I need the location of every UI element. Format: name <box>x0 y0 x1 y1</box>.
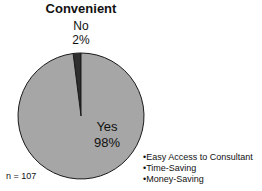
reasons-list: •Easy Access to Consultant •Time-Saving … <box>143 152 253 185</box>
slice-label-yes: Yes 98% <box>86 119 128 151</box>
sample-size-label: n = 107 <box>6 171 36 181</box>
reason-item: •Time-Saving <box>143 163 253 174</box>
slice-no-category: No <box>60 19 102 33</box>
reason-item: •Money-Saving <box>143 174 253 185</box>
reason-item: •Easy Access to Consultant <box>143 152 253 163</box>
pie-slice-yes <box>18 53 144 179</box>
slice-yes-category: Yes <box>86 119 128 135</box>
slice-label-no: No 2% <box>60 19 102 47</box>
slice-yes-value: 98% <box>86 135 128 151</box>
slice-no-value: 2% <box>60 33 102 47</box>
pie-slices <box>18 53 144 179</box>
